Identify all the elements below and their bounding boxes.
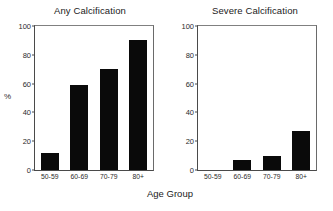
- bar-slot: 50-59: [35, 26, 65, 170]
- x-tick-label: 60-69: [71, 173, 88, 180]
- bar-group: 50-59 60-69 70-79 80+: [35, 26, 153, 170]
- plot-area: 100 80 60 40 20 0 50-59 60-69: [197, 25, 317, 171]
- bar[interactable]: [100, 69, 118, 170]
- figure: Any Calcification % 100 80 60 40 20 0 50…: [0, 0, 333, 211]
- x-axis-title: Age Group: [147, 188, 193, 199]
- x-tick-label: 80+: [132, 173, 144, 180]
- chart-title: Any Calcification: [0, 5, 166, 16]
- x-tick-label: 70-79: [263, 173, 280, 180]
- bar-slot: 50-59: [198, 26, 228, 170]
- x-tick-label: 50-59: [41, 173, 58, 180]
- x-tick-label: 60-69: [234, 173, 251, 180]
- bar[interactable]: [263, 156, 281, 170]
- bar[interactable]: [70, 85, 88, 170]
- bar[interactable]: [292, 131, 310, 170]
- bar-slot: 80+: [287, 26, 317, 170]
- plot-area: 100 80 60 40 20 0 50-59 60-69: [34, 25, 154, 171]
- bar[interactable]: [129, 40, 147, 170]
- chart-panel-any-calcification: Any Calcification % 100 80 60 40 20 0 50…: [0, 0, 166, 211]
- bar-slot: 80+: [124, 26, 154, 170]
- chart-panel-severe-calcification: Severe Calcification 100 80 60 40 20 0 5…: [167, 0, 333, 211]
- bar-group: 50-59 60-69 70-79 80+: [198, 26, 316, 170]
- y-axis-label: %: [4, 92, 11, 101]
- x-tick-label: 70-79: [100, 173, 117, 180]
- chart-title: Severe Calcification: [167, 5, 333, 16]
- bar-slot: 60-69: [228, 26, 258, 170]
- x-tick-label: 50-59: [204, 173, 221, 180]
- bar[interactable]: [233, 160, 251, 170]
- x-tick-label: 80+: [295, 173, 307, 180]
- bar-slot: 60-69: [65, 26, 95, 170]
- bar-slot: 70-79: [257, 26, 287, 170]
- bar[interactable]: [41, 153, 59, 170]
- bar-slot: 70-79: [94, 26, 124, 170]
